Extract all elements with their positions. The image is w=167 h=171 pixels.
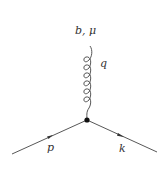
feynman-diagram: b, μ q p k (0, 0, 167, 171)
gluon-momentum-label: q (100, 57, 107, 70)
incoming-momentum-label: p (47, 141, 54, 154)
gluon-line (84, 46, 92, 120)
incoming-arrow-icon (47, 135, 53, 139)
vertex-dot (84, 117, 89, 122)
outgoing-arrow-icon (117, 133, 124, 137)
outgoing-momentum-label: k (119, 142, 126, 155)
gluon-index-label: b, μ (75, 24, 96, 37)
